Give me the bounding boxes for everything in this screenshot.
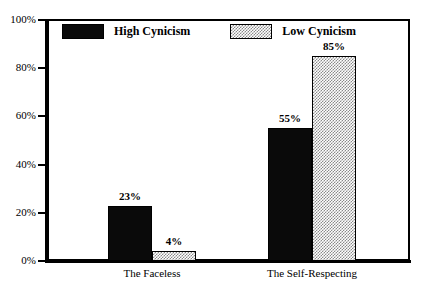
y-axis-tick xyxy=(38,115,46,117)
x-axis-category-label: The Faceless xyxy=(62,267,242,279)
bar-value-label: 23% xyxy=(100,191,160,202)
y-axis-line xyxy=(45,19,48,263)
y-axis-tick xyxy=(38,19,46,21)
legend-item-low-cynicism: Low Cynicism xyxy=(230,24,356,39)
legend-label-high-cynicism: High Cynicism xyxy=(114,25,190,38)
y-axis-tick xyxy=(38,212,46,214)
bar-low-cynicism xyxy=(152,251,196,261)
bar-high-cynicism xyxy=(108,206,152,261)
legend-label-low-cynicism: Low Cynicism xyxy=(282,25,356,38)
bar-high-cynicism xyxy=(268,128,312,261)
x-axis-category-label: The Self-Respecting xyxy=(222,267,402,279)
y-axis-tick-label: 80% xyxy=(0,62,36,73)
x-axis-line xyxy=(45,260,411,263)
legend-swatch-high-cynicism-icon xyxy=(62,24,104,39)
bar-value-label: 85% xyxy=(304,41,364,52)
y-axis-tick-label: 40% xyxy=(0,159,36,170)
bar-value-label: 4% xyxy=(144,236,204,247)
bar-value-label: 55% xyxy=(260,113,320,124)
bar-low-cynicism xyxy=(312,56,356,261)
bar-chart: 0%20%40%60%80%100% 23%4%55%85% The Facel… xyxy=(0,0,422,291)
y-axis-tick-label: 60% xyxy=(0,110,36,121)
legend-swatch-low-cynicism-icon xyxy=(230,24,272,39)
legend-item-high-cynicism: High Cynicism xyxy=(62,24,190,39)
y-axis-tick-label: 20% xyxy=(0,207,36,218)
legend: High Cynicism Low Cynicism xyxy=(62,24,356,39)
y-axis-tick xyxy=(38,67,46,69)
y-axis-tick xyxy=(38,164,46,166)
y-axis-tick-label: 0% xyxy=(0,255,36,266)
y-axis-tick-label: 100% xyxy=(0,14,36,25)
